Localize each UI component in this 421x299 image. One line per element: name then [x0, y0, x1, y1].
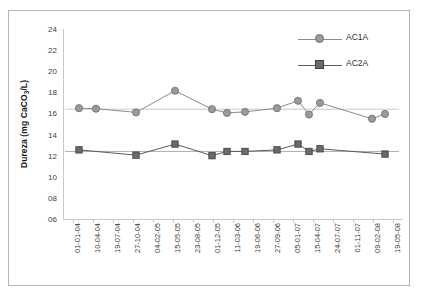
data-point-square — [317, 146, 323, 152]
plot-area: Dureza (mg CaCO3/L) 24222018161412100806… — [9, 11, 411, 287]
data-point-circle — [368, 115, 375, 122]
legend-label-ac1a: AC1A — [346, 32, 368, 42]
chart-legend: AC1A AC2A — [294, 31, 394, 77]
series-line — [79, 91, 385, 119]
chart-figure: Dureza (mg CaCO3/L) 24222018161412100806… — [8, 10, 410, 286]
data-point-square — [295, 141, 301, 147]
data-point-square — [209, 152, 215, 158]
data-point-square — [242, 148, 248, 154]
legend-item-ac1a[interactable]: AC1A — [294, 31, 394, 47]
data-point-circle — [381, 110, 388, 117]
data-point-circle — [75, 105, 82, 112]
series-line — [79, 144, 385, 156]
data-point-square — [76, 147, 82, 153]
data-point-circle — [241, 108, 248, 115]
data-point-circle — [305, 111, 312, 118]
legend-label-ac2a: AC2A — [346, 58, 368, 68]
data-point-circle — [223, 109, 230, 116]
data-point-circle — [208, 106, 215, 113]
series-ac2a — [65, 141, 399, 159]
square-marker-icon — [315, 60, 324, 69]
series-ac1a — [65, 87, 399, 122]
legend-item-ac2a[interactable]: AC2A — [294, 57, 394, 73]
circle-marker-icon — [315, 34, 324, 43]
data-point-square — [172, 141, 178, 147]
data-point-square — [274, 147, 280, 153]
data-point-square — [224, 148, 230, 154]
data-point-circle — [92, 105, 99, 112]
data-point-circle — [294, 97, 301, 104]
data-point-circle — [273, 105, 280, 112]
data-point-circle — [171, 87, 178, 94]
data-point-square — [306, 148, 312, 154]
data-point-square — [382, 151, 388, 157]
data-point-circle — [132, 109, 139, 116]
data-point-square — [133, 152, 139, 158]
data-point-circle — [316, 99, 323, 106]
